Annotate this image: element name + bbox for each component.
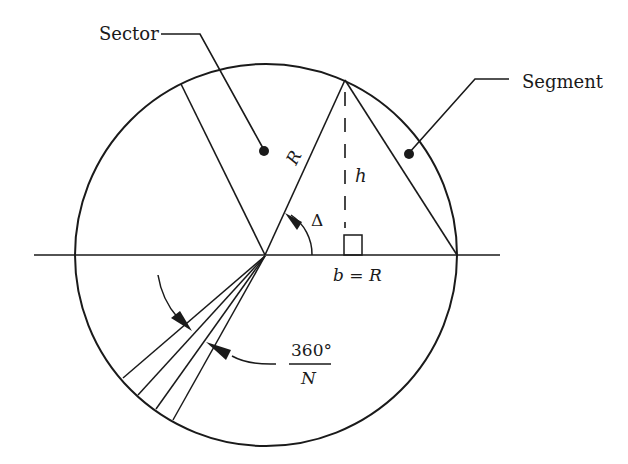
segment-leader-line	[409, 79, 509, 153]
angle-delta-label: Δ	[311, 210, 323, 230]
circle-sector-segment-diagram: Sector Segment R h Δ b = R 360° N	[0, 0, 628, 464]
sector-label: Sector	[99, 23, 159, 44]
segment-label: Segment	[522, 71, 604, 92]
fan-angle-numerator: 360°	[291, 340, 332, 360]
fan-arrow-upper-arc	[158, 275, 178, 318]
sector-radius-left	[181, 84, 265, 255]
segment-dot	[404, 149, 414, 159]
fan-arrow-lower-arc	[232, 356, 276, 364]
right-angle-marker	[344, 235, 362, 255]
fan-angle-denominator: N	[300, 368, 317, 388]
angle-delta-arrowhead	[285, 213, 302, 230]
height-label: h	[355, 165, 367, 186]
base-label: b = R	[333, 265, 382, 285]
fan-arrowhead-lower	[206, 342, 231, 360]
fan-lines	[123, 256, 265, 420]
sector-leader-line	[161, 34, 264, 150]
sector-dot	[259, 146, 269, 156]
radius-label: R	[281, 147, 305, 169]
